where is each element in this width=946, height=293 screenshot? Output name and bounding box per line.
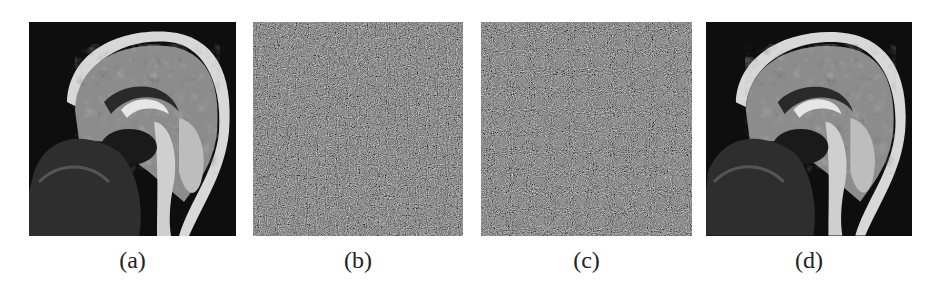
panel-d-label: (d) xyxy=(706,247,912,274)
panel-a-mri-image xyxy=(29,22,236,236)
encrypted-image-2 xyxy=(481,22,692,236)
brain-mri-decrypted xyxy=(706,22,912,236)
panel-d-mri-image xyxy=(706,22,912,236)
encrypted-image-1 xyxy=(253,22,463,236)
panel-c-noise-image xyxy=(481,22,692,236)
panel-b-label: (b) xyxy=(253,247,463,274)
panel-b-noise-image xyxy=(253,22,463,236)
panel-c-label: (c) xyxy=(481,247,692,274)
brain-mri-original xyxy=(29,22,236,236)
panel-a-label: (a) xyxy=(29,247,236,274)
